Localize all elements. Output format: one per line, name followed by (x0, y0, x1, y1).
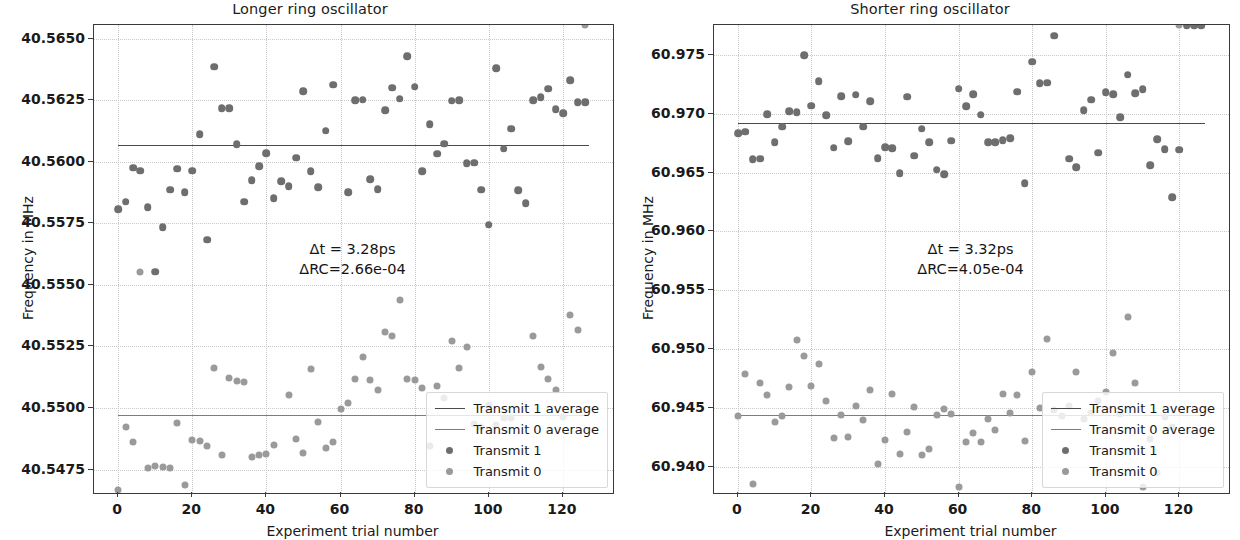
data-point-transmit0 (756, 380, 763, 387)
data-point-transmit1 (1006, 135, 1014, 143)
data-point-transmit0 (992, 427, 999, 434)
data-point-transmit0 (882, 437, 889, 444)
data-point-transmit1 (830, 144, 838, 152)
data-point-transmit0 (248, 454, 255, 461)
gridline-horizontal (714, 173, 1229, 174)
data-point-transmit0 (793, 337, 800, 344)
y-tick-label: 60.960 (651, 222, 705, 238)
data-point-transmit0 (999, 390, 1006, 397)
data-point-transmit1 (426, 120, 434, 128)
data-point-transmit0 (852, 402, 859, 409)
x-tick-label: 120 (1164, 501, 1193, 517)
data-point-transmit1 (1124, 71, 1132, 79)
data-point-transmit1 (1073, 164, 1081, 172)
data-point-transmit1 (800, 52, 808, 60)
data-point-transmit0 (144, 464, 151, 471)
x-tick-mark (884, 492, 885, 497)
legend-item-2: Transmit 0 average (1049, 419, 1215, 440)
data-point-transmit1 (962, 102, 970, 110)
data-point-transmit1 (771, 138, 779, 146)
legend-key-t1 (433, 408, 467, 409)
data-point-transmit1 (544, 85, 552, 93)
data-point-transmit0 (926, 445, 933, 452)
y-tick-label: 60.950 (651, 340, 705, 356)
data-point-transmit1 (433, 150, 441, 158)
data-point-transmit1 (322, 127, 330, 135)
data-point-transmit1 (500, 145, 508, 153)
data-point-transmit1 (970, 90, 978, 98)
y-tick-label: 40.5625 (21, 91, 85, 107)
data-point-transmit0 (115, 486, 122, 493)
chart-panel-longer: Longer ring oscillator Frequency in MHz … (0, 0, 620, 540)
data-point-transmit1 (240, 198, 248, 206)
data-point-transmit0 (330, 439, 337, 446)
y-tick-label: 40.5500 (21, 399, 85, 415)
data-point-transmit0 (322, 445, 329, 452)
data-point-transmit1 (263, 149, 271, 157)
data-point-transmit0 (359, 353, 366, 360)
data-point-transmit1 (1161, 146, 1169, 154)
data-point-transmit1 (507, 125, 515, 133)
data-point-transmit1 (1095, 149, 1103, 157)
data-point-transmit0 (374, 387, 381, 394)
y-tick-mark (88, 38, 93, 39)
x-tick-label: 40 (874, 501, 893, 517)
data-point-transmit0 (874, 461, 881, 468)
y-tick-mark (88, 407, 93, 408)
data-point-transmit1 (889, 145, 897, 153)
x-tick-label: 60 (330, 501, 349, 517)
data-point-transmit0 (218, 451, 225, 458)
x-tick-label: 120 (547, 501, 576, 517)
data-point-transmit1 (1131, 89, 1139, 97)
legend-key-t0 (1049, 468, 1083, 475)
y-tick-mark (708, 348, 713, 349)
data-point-transmit0 (801, 352, 808, 359)
data-point-transmit0 (985, 415, 992, 422)
data-point-transmit1 (174, 165, 182, 173)
y-axis-title: Frequency in MHz (640, 196, 656, 320)
data-point-transmit1 (844, 137, 852, 145)
gridline-horizontal (94, 285, 613, 286)
data-point-transmit1 (911, 152, 919, 160)
data-point-transmit0 (918, 451, 925, 458)
data-point-transmit0 (734, 412, 741, 419)
y-tick-label: 60.970 (651, 105, 705, 121)
data-point-transmit1 (1080, 106, 1088, 114)
x-tick-label: 100 (473, 501, 502, 517)
legend-key-t0 (433, 429, 467, 430)
chart-panel-shorter: Shorter ring oscillator Frequency in MHz… (620, 0, 1240, 540)
data-point-transmit1 (1014, 88, 1022, 96)
data-point-transmit0 (955, 484, 962, 491)
legend-line-icon (1051, 408, 1081, 409)
legend-key-t0 (1049, 429, 1083, 430)
data-point-transmit0 (404, 376, 411, 383)
data-point-transmit1 (359, 96, 367, 104)
data-point-transmit1 (226, 104, 234, 112)
data-point-transmit0 (129, 439, 136, 446)
data-point-transmit1 (114, 205, 122, 213)
data-point-transmit1 (396, 95, 404, 103)
data-point-transmit1 (567, 76, 575, 84)
chart-title: Longer ring oscillator (0, 1, 620, 17)
data-point-transmit0 (933, 412, 940, 419)
data-point-transmit0 (174, 419, 181, 426)
data-point-transmit1 (1153, 135, 1161, 143)
data-point-transmit0 (764, 391, 771, 398)
x-tick-label: 0 (112, 501, 122, 517)
data-point-transmit0 (823, 397, 830, 404)
x-axis-title: Experiment trial number (713, 523, 1228, 539)
data-point-transmit0 (315, 419, 322, 426)
data-point-transmit0 (582, 24, 589, 29)
data-point-transmit0 (962, 438, 969, 445)
x-axis-title: Experiment trial number (93, 523, 612, 539)
gridline-horizontal (714, 55, 1229, 56)
chart-legend: Transmit 1 averageTransmit 0 averageTran… (1042, 392, 1224, 488)
data-point-transmit0 (1014, 391, 1021, 398)
data-point-transmit0 (1176, 24, 1183, 29)
data-point-transmit1 (1021, 179, 1029, 187)
data-point-transmit0 (911, 403, 918, 410)
data-point-transmit0 (270, 442, 277, 449)
data-point-transmit1 (270, 194, 278, 202)
legend-marker-icon (1062, 447, 1070, 455)
data-point-transmit1 (389, 84, 397, 92)
